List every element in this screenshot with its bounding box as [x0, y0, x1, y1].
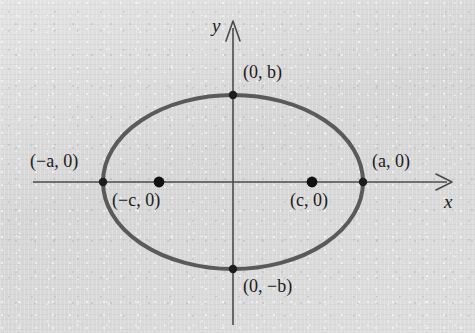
focus-left-point	[154, 177, 165, 188]
vertex-bottom-label: (0, −b)	[243, 277, 292, 295]
x-axis-label: x	[444, 192, 452, 211]
focus-left-label: (−c, 0)	[112, 191, 160, 209]
vertex-top-label: (0, b)	[243, 63, 282, 81]
ellipse-figure: (0, b) (0, −b) (−a, 0) (a, 0) (−c, 0) (c…	[0, 0, 475, 333]
focus-right-label: (c, 0)	[290, 191, 328, 209]
vertex-bottom-point	[229, 265, 237, 273]
focus-right-point	[307, 177, 318, 188]
vertex-left-label: (−a, 0)	[30, 152, 78, 170]
vertex-right-point	[359, 178, 367, 186]
y-axis-label: y	[212, 16, 220, 35]
vertex-right-label: (a, 0)	[372, 152, 410, 170]
vertex-top-point	[229, 91, 237, 99]
vertex-left-point	[99, 178, 107, 186]
